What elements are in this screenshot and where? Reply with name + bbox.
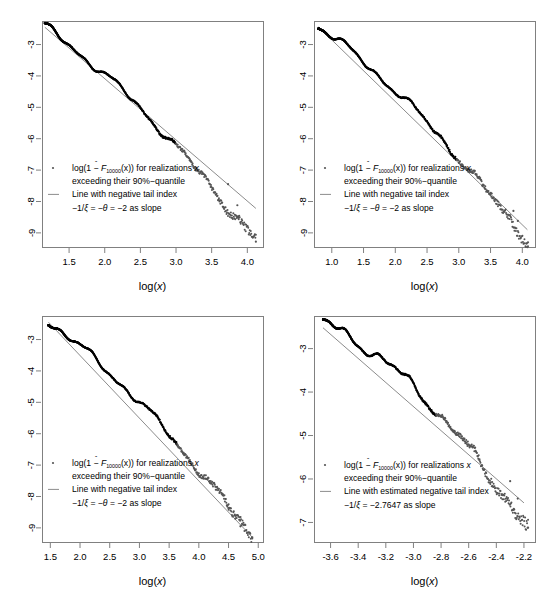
data-point: [527, 245, 529, 247]
x-tick-label: 3.0: [169, 256, 182, 267]
data-point: [239, 525, 241, 527]
figure-grid: 1.52.02.53.03.54.0-3-4-5-6-7-8-9log(x)lo…: [0, 0, 543, 591]
data-point: [250, 233, 252, 235]
data-point: [245, 529, 247, 531]
data-point: [476, 173, 478, 175]
data-point: [498, 488, 500, 490]
data-point: [491, 481, 493, 483]
plot-bottom-left: 1.52.02.53.03.54.04.55.0-3-4-5-6-7-8-9lo…: [0, 296, 271, 591]
legend-label-series-line1: log(1 − F10000(x)) for realizations x: [72, 163, 200, 174]
data-point: [527, 241, 529, 243]
legend-label-series-line1: log(1 − F10000(x)) for realizations x: [72, 458, 200, 469]
x-tick-label: 3.5: [484, 256, 497, 267]
data-point: [227, 183, 229, 185]
data-point: [244, 524, 246, 526]
data-point: [524, 517, 526, 519]
x-tick-label: 2.5: [420, 256, 433, 267]
data-point: [488, 190, 490, 192]
data-point: [461, 435, 463, 437]
data-point: [231, 214, 233, 216]
data-point: [510, 216, 512, 218]
data-point: [500, 205, 502, 207]
legend-label-line-line1: Line with negative tail index: [72, 484, 178, 494]
data-point: [520, 515, 522, 517]
data-point: [515, 227, 517, 229]
x-tick-label: 1.5: [357, 256, 370, 267]
x-tick-label: 1.0: [325, 256, 338, 267]
data-point: [238, 217, 240, 219]
data-point: [521, 519, 523, 521]
legend: log(1 − F10000(x)) for realizations xˆex…: [320, 457, 489, 510]
data-point: [169, 435, 171, 437]
data-point: [497, 201, 499, 203]
data-point: [489, 483, 491, 485]
x-axis-label: log(x): [139, 575, 167, 587]
data-point: [249, 533, 251, 535]
x-tick-label: 2.5: [134, 256, 147, 267]
data-point: [509, 218, 511, 220]
data-point: [490, 478, 492, 480]
legend-label-line-line1: Line with negative tail index: [72, 189, 178, 199]
plot-top-right: 1.01.52.02.53.03.54.0-3-4-5-6-7-8-9log(x…: [271, 0, 543, 296]
data-point: [509, 480, 511, 482]
legend-label-series-line1: log(1 − F10000(x)) for realizations x: [344, 460, 472, 471]
panel-top-right: 1.01.52.02.53.03.54.0-3-4-5-6-7-8-9log(x…: [271, 0, 543, 296]
data-point: [519, 235, 521, 237]
y-tick-label: -4: [298, 388, 309, 396]
legend-point-marker: [324, 464, 326, 466]
legend: log(1 − F10000(x)) for realizations xˆex…: [320, 160, 472, 213]
data-point: [526, 522, 528, 524]
y-tick-label: -5: [26, 103, 37, 111]
x-tick-label: 3.0: [133, 551, 146, 562]
data-point: [476, 452, 478, 454]
data-point: [512, 221, 514, 223]
y-tick-label: -6: [26, 134, 37, 142]
data-point: [233, 216, 235, 218]
data-point: [233, 510, 235, 512]
data-point: [177, 444, 179, 446]
data-point: [232, 212, 234, 214]
data-point: [218, 197, 220, 199]
x-tick-label: -3.0: [405, 551, 421, 562]
legend-point-marker: [52, 462, 54, 464]
data-point: [467, 441, 469, 443]
y-tick-label: -3: [298, 344, 309, 352]
y-tick-label: -3: [298, 40, 309, 48]
x-tick-label: -2.6: [461, 551, 477, 562]
legend-point-marker: [324, 167, 326, 169]
data-point: [235, 515, 237, 517]
data-point: [447, 147, 449, 149]
x-tick-label: 2.0: [98, 256, 111, 267]
x-tick-label: 3.5: [205, 256, 218, 267]
plot-top-left: 1.52.02.53.03.54.0-3-4-5-6-7-8-9log(x)lo…: [0, 0, 271, 296]
data-point: [207, 479, 209, 481]
data-point: [240, 516, 242, 518]
data-point: [217, 195, 219, 197]
data-point: [241, 520, 243, 522]
data-point: [230, 510, 232, 512]
data-point: [181, 148, 183, 150]
x-tick-label: 4.0: [516, 256, 529, 267]
data-point: [465, 439, 467, 441]
y-tick-label: -5: [298, 103, 309, 111]
x-tick-label: 1.5: [62, 256, 75, 267]
data-point: [489, 194, 491, 196]
data-point: [496, 203, 498, 205]
data-point: [485, 472, 487, 474]
y-tick-label: -5: [26, 398, 37, 406]
legend-label-series-line1: log(1 − F10000(x)) for realizations x: [344, 163, 472, 174]
data-point: [507, 497, 509, 499]
data-point: [527, 519, 529, 521]
data-point: [248, 536, 250, 538]
data-point: [155, 127, 157, 129]
y-tick-label: -6: [298, 475, 309, 483]
y-tick-label: -6: [26, 429, 37, 437]
data-point: [516, 235, 518, 237]
y-tick-label: -4: [298, 72, 309, 80]
x-axis-label: log(x): [411, 575, 439, 587]
data-point: [214, 484, 216, 486]
y-tick-label: -7: [26, 166, 37, 174]
data-point: [245, 230, 247, 232]
data-point: [504, 493, 506, 495]
data-point: [418, 393, 420, 395]
